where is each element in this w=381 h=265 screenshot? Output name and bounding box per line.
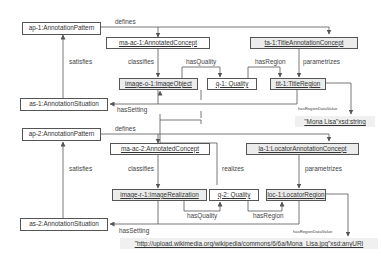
edge-label-hasregiondatavalue-2: hasRegionDataValue (293, 230, 332, 234)
edge-label-satisfies-2: satisfies (69, 166, 92, 172)
node-as-1[interactable]: as-1:AnnotationSituation (20, 98, 108, 111)
edge-label-parametrizes-2: parametrizes (305, 166, 342, 172)
node-ap-2[interactable]: ap-2:AnnotationPattern (22, 128, 101, 141)
node-q-2[interactable]: q-2: Quality (209, 189, 259, 201)
node-tit-1[interactable]: tit-1:TitleRegion (270, 78, 326, 90)
node-image-o-1[interactable]: image-o-1:ImageObject (119, 78, 198, 90)
edge-label-hasquality-2: hasQuality (187, 213, 217, 219)
node-loc-1[interactable]: loc-1:LocatorRegion (266, 189, 326, 201)
node-ma-ac-1[interactable]: ma-ac-1:AnnotatedConcept (106, 37, 210, 49)
annotation-pattern-diagram: ap-1:AnnotationPattern ma-ac-1:Annotated… (0, 0, 381, 265)
node-q-1[interactable]: q-1: Quality (207, 78, 257, 90)
edge-label-hasregion-1: hasRegion (255, 59, 286, 65)
edge-label-defines-2: defines (115, 126, 136, 132)
node-ma-ac-2[interactable]: ma-ac-2:AnnotatedConcept (110, 143, 210, 155)
edge-label-defines-1: defines (115, 19, 136, 25)
node-ta-1[interactable]: ta-1:TitleAnnotationConcept (250, 37, 358, 49)
literal-mona-lisa-uri[interactable]: "http://upload.wikimedia.org/wikipedia/c… (120, 238, 378, 249)
edge-label-hassetting-1: hasSetting (117, 107, 147, 113)
edge-label-classifies-1: classifies (128, 59, 154, 65)
node-as-2[interactable]: as-2:AnnotationSituation (20, 218, 108, 231)
node-image-r-1[interactable]: image-r-1:ImageRealization (112, 189, 207, 201)
literal-mona-lisa[interactable]: "Mona Lisa"xsd:string (295, 116, 375, 127)
edge-label-satisfies-1: satisfies (69, 59, 92, 65)
edge-label-parametrizes-1: parametrizes (303, 59, 340, 65)
edge-label-hasquality-1: hasQuality (186, 59, 216, 65)
edge-label-hassetting-2: hasSetting (119, 228, 149, 234)
edge-label-hasregion-2: hasRegion (253, 213, 284, 219)
node-la-1[interactable]: la-1:LocatorAnnotationConcept (246, 143, 359, 155)
node-ap-1[interactable]: ap-1:AnnotationPattern (22, 22, 101, 35)
edge-label-classifies-2: classifies (128, 166, 154, 172)
edge-label-hasregiondatavalue-1: hasRegionDataValue (298, 107, 337, 111)
edge-label-realizes: realizes (222, 166, 244, 172)
